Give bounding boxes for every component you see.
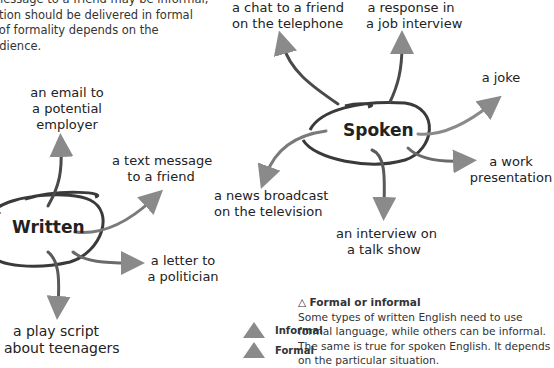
label-line: a politician xyxy=(146,269,220,285)
spoken-hub-label: Spoken xyxy=(343,120,414,140)
label-line: a play script xyxy=(4,323,108,340)
label-line: employer xyxy=(24,117,110,133)
label-line: an email to xyxy=(24,85,110,101)
label-chat: a chat to a friend on the telephone xyxy=(232,0,334,32)
label-line: an interview on xyxy=(336,226,432,242)
label-text-message: a text message to a friend xyxy=(112,153,210,185)
label-job-interview: a response in a job interview xyxy=(366,0,456,32)
label-line: a job interview xyxy=(366,16,456,32)
written-hub-label: Written xyxy=(12,217,85,237)
label-line: a talk show xyxy=(336,242,432,258)
label-news-broadcast: a news broadcast on the television xyxy=(214,188,318,220)
formal-informal-note: △ Formal or informal Some types of writt… xyxy=(298,295,554,368)
label-line: a work xyxy=(468,154,554,170)
label-line: a chat to a friend xyxy=(232,0,334,16)
triangle-up-icon xyxy=(243,322,265,338)
label-line: a potential xyxy=(24,101,110,117)
arrow-text-message xyxy=(75,200,152,233)
arrow-email xyxy=(48,148,61,206)
note-line: formal language, while others can be inf… xyxy=(298,324,554,339)
arrow-work-presentation xyxy=(408,148,462,161)
arrow-chat xyxy=(283,45,338,104)
note-line: on the particular situation. xyxy=(298,353,554,368)
note-line: The same is true for spoken English. It … xyxy=(298,339,554,354)
label-line: a response in xyxy=(366,0,456,16)
arrow-job-interview xyxy=(390,45,402,102)
label-talk-show: an interview on a talk show xyxy=(336,226,432,258)
arrow-play-script xyxy=(48,252,59,305)
label-line: a joke xyxy=(476,70,526,86)
triangle-outline-icon: △ xyxy=(298,296,306,308)
arrow-letter xyxy=(73,252,130,263)
triangle-up-icon xyxy=(243,342,265,358)
label-joke: a joke xyxy=(476,70,526,86)
label-line: on the telephone xyxy=(232,16,334,32)
label-line: on the television xyxy=(214,204,318,220)
label-line: to a friend xyxy=(112,169,210,185)
label-line: a letter to xyxy=(146,253,220,269)
label-email: an email to a potential employer xyxy=(24,85,110,133)
label-play-script: a play script about teenagers xyxy=(4,323,108,357)
label-line: a news broadcast xyxy=(214,188,318,204)
note-title: Formal or informal xyxy=(310,296,421,308)
note-heading: △ Formal or informal xyxy=(298,295,554,310)
label-line: a text message xyxy=(112,153,210,169)
label-letter: a letter to a politician xyxy=(146,253,220,285)
label-line: presentation xyxy=(468,170,554,186)
label-line: about teenagers xyxy=(4,340,108,357)
note-line: Some types of written English need to us… xyxy=(298,310,554,325)
label-work-presentation: a work presentation xyxy=(468,154,554,186)
arrow-talk-show xyxy=(372,150,384,206)
